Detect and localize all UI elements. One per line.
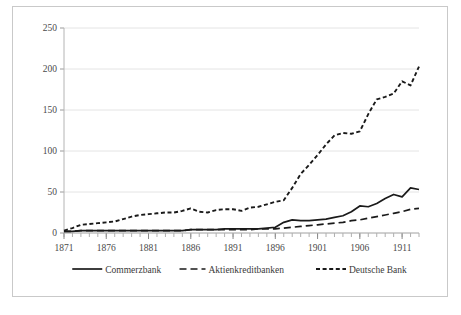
y-tick-label: 150	[43, 105, 58, 115]
legend-label-1: Aktienkreditbanken	[209, 265, 285, 275]
y-tick-label: 250	[43, 23, 58, 33]
x-tick-label: 1906	[350, 243, 369, 253]
legend-label-2: Deutsche Bank	[349, 265, 407, 275]
chart-figure: 0501001502002501871187618811886189118961…	[12, 6, 448, 297]
series-line-0	[64, 188, 419, 231]
x-tick-label: 1881	[139, 243, 158, 253]
y-tick-label: 50	[48, 187, 58, 197]
x-tick-label: 1876	[97, 243, 116, 253]
x-tick-label: 1896	[266, 243, 285, 253]
x-tick-label: 1871	[55, 243, 74, 253]
y-tick-label: 100	[43, 146, 58, 156]
x-tick-label: 1891	[224, 243, 243, 253]
line-chart: 0501001502002501871187618811886189118961…	[13, 7, 447, 296]
x-tick-label: 1901	[308, 243, 327, 253]
x-tick-label: 1911	[393, 243, 412, 253]
legend-label-0: Commerzbank	[105, 265, 161, 275]
y-tick-label: 0	[52, 228, 57, 238]
y-tick-label: 200	[43, 64, 58, 74]
x-tick-label: 1886	[181, 243, 200, 253]
